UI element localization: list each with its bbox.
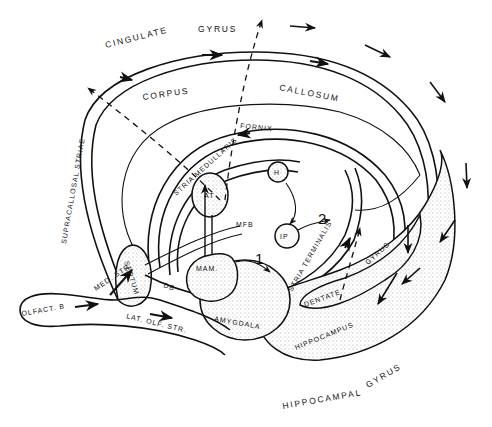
- label-hippocampal-gyrus: GYRUS: [364, 361, 403, 389]
- label-corpus: CORPUS: [142, 86, 190, 102]
- label-cingulate-gyrus: GYRUS: [198, 24, 237, 34]
- output-2: 2: [318, 210, 326, 227]
- hippocampus: [255, 150, 455, 360]
- output-1: 1: [255, 250, 263, 267]
- label-mfb: MFB: [236, 221, 254, 228]
- limbic-system-diagram: CINGULATE GYRUS CORPUS CALLOSUM FORNIX S…: [0, 0, 492, 427]
- label-mam: MAM.: [196, 265, 218, 272]
- label-hippocampal: HIPPOCAMPAL: [282, 387, 363, 411]
- label-ip: IP: [280, 233, 289, 240]
- label-callosum: CALLOSUM: [279, 82, 341, 103]
- label-olfact-b: OLFACT. B: [21, 302, 66, 317]
- label-db: DB: [163, 281, 176, 292]
- label-supracallosal-striae: SUPRACALLOSAL STRIAE: [60, 137, 86, 244]
- label-cingulate: CINGULATE: [104, 25, 169, 50]
- mammillary-body: [187, 253, 238, 301]
- anterior-thalamus: [192, 173, 228, 260]
- dashed-projection-up: [225, 20, 262, 200]
- label-at: AT: [204, 192, 214, 199]
- label-h: H: [274, 169, 280, 176]
